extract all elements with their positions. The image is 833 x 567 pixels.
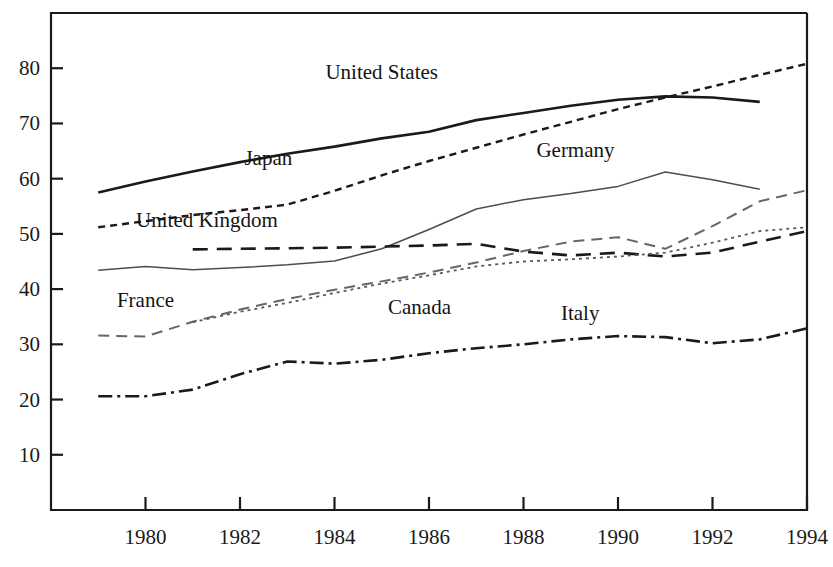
y-tick-label: 70 xyxy=(19,111,40,135)
chart-plot-area: 1020304050607080 19801982198419861988199… xyxy=(0,0,833,567)
series-label-japan: Japan xyxy=(244,146,292,170)
y-tick-label: 10 xyxy=(19,443,40,467)
series-line-united-kingdom xyxy=(193,231,807,256)
series-line-united-states xyxy=(98,96,760,192)
series-label-italy: Italy xyxy=(561,301,600,325)
y-axis-ticks: 1020304050607080 xyxy=(19,56,63,467)
series-label-france: France xyxy=(117,288,174,312)
y-tick-label: 60 xyxy=(19,167,40,191)
series-label-germany: Germany xyxy=(536,138,615,162)
x-axis-ticks: 19801982198419861988199019921994 xyxy=(125,497,829,549)
chart-axes xyxy=(51,13,807,510)
x-tick-label: 1982 xyxy=(219,525,261,549)
x-tick-label: 1992 xyxy=(692,525,734,549)
x-tick-label: 1980 xyxy=(125,525,167,549)
y-tick-label: 30 xyxy=(19,332,40,356)
x-tick-label: 1984 xyxy=(314,525,357,549)
series-line-japan xyxy=(98,64,807,227)
series-line-italy xyxy=(98,328,807,396)
series-label-canada: Canada xyxy=(388,295,452,319)
x-tick-label: 1988 xyxy=(503,525,545,549)
series-line-canada xyxy=(193,227,807,322)
plot-frame xyxy=(51,13,807,510)
y-tick-label: 20 xyxy=(19,388,40,412)
line-chart: 1020304050607080 19801982198419861988199… xyxy=(0,0,833,567)
series-label-united-kingdom: United Kingdom xyxy=(136,208,278,232)
x-tick-label: 1986 xyxy=(408,525,450,549)
x-tick-label: 1990 xyxy=(597,525,639,549)
series-labels-group: United StatesJapanGermanyUnited KingdomF… xyxy=(117,60,615,325)
y-tick-label: 50 xyxy=(19,222,40,246)
y-tick-label: 80 xyxy=(19,56,40,80)
series-label-united-states: United States xyxy=(325,60,438,84)
y-tick-label: 40 xyxy=(19,277,40,301)
x-tick-label: 1994 xyxy=(786,525,829,549)
